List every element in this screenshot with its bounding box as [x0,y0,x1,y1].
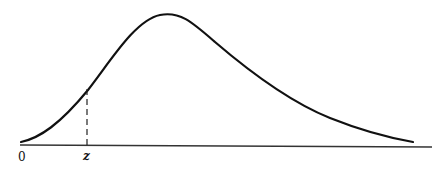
origin-label: 0 [18,150,26,164]
distribution-diagram [0,0,448,172]
density-curve [21,14,413,142]
x-axis [20,145,432,147]
z-label: z [83,149,90,163]
